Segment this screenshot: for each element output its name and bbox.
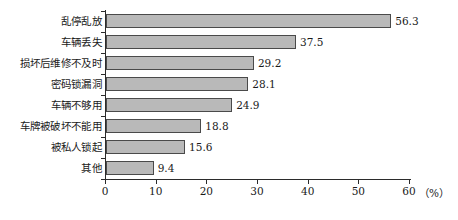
bar-value-label: 29.2 — [258, 56, 281, 70]
y-tick — [101, 137, 105, 138]
x-tick — [156, 180, 157, 184]
bar-value-label: 28.1 — [252, 77, 275, 91]
bar-value-label: 18.8 — [205, 119, 228, 133]
y-tick — [101, 53, 105, 54]
x-tick-label: 0 — [90, 185, 120, 197]
plot-area: 56.3 37.5 29.2 28.1 24.9 18.8 15.6 9.4 — [106, 11, 410, 179]
y-tick — [101, 11, 105, 12]
bar-row: 28.1 — [106, 74, 410, 95]
x-axis-unit-label: （%） — [419, 185, 449, 200]
bar-value-label: 9.4 — [158, 161, 175, 175]
bar — [106, 77, 248, 91]
x-tick — [308, 180, 309, 184]
y-tick — [101, 32, 105, 33]
category-label: 损坏后维修不及时 — [20, 53, 102, 74]
bar-chart: 乱停乱放 车辆丢失 损坏后维修不及时 密码锁漏洞 车辆不够用 车牌被破坏不能用 … — [0, 0, 458, 220]
bar — [106, 14, 391, 28]
bar-row: 29.2 — [106, 53, 410, 74]
x-tick — [358, 180, 359, 184]
bar — [106, 35, 296, 49]
bar-row: 37.5 — [106, 32, 410, 53]
category-label: 车牌被破坏不能用 — [20, 116, 102, 137]
category-label: 车辆不够用 — [51, 95, 103, 116]
bar-row: 18.8 — [106, 116, 410, 137]
bar-value-label: 24.9 — [236, 98, 259, 112]
bar — [106, 56, 254, 70]
bar — [106, 98, 232, 112]
x-tick-label: 50 — [343, 185, 373, 197]
bar-row: 56.3 — [106, 11, 410, 32]
x-tick-label: 40 — [293, 185, 323, 197]
y-axis-line — [105, 10, 106, 180]
category-label: 其他 — [81, 158, 102, 179]
bar-row: 9.4 — [106, 158, 410, 179]
category-label: 被私人锁起 — [51, 137, 103, 158]
y-tick — [101, 116, 105, 117]
x-tick — [105, 180, 106, 184]
x-tick-label: 10 — [141, 185, 171, 197]
y-tick — [101, 74, 105, 75]
x-tick-label: 30 — [242, 185, 272, 197]
category-label: 密码锁漏洞 — [51, 74, 103, 95]
bar-row: 15.6 — [106, 137, 410, 158]
x-tick-label: 20 — [191, 185, 221, 197]
bar-value-label: 15.6 — [189, 140, 212, 154]
x-tick — [409, 180, 410, 184]
bar-row: 24.9 — [106, 95, 410, 116]
bar-value-label: 56.3 — [395, 14, 418, 28]
x-tick — [206, 180, 207, 184]
bar — [106, 161, 154, 175]
bar-value-label: 37.5 — [300, 35, 323, 49]
category-label: 车辆丢失 — [61, 32, 102, 53]
category-label: 乱停乱放 — [61, 11, 102, 32]
bar — [106, 140, 185, 154]
y-tick — [101, 158, 105, 159]
x-tick — [257, 180, 258, 184]
bar — [106, 119, 201, 133]
x-axis-line — [105, 179, 411, 180]
category-axis-labels: 乱停乱放 车辆丢失 损坏后维修不及时 密码锁漏洞 车辆不够用 车牌被破坏不能用 … — [0, 11, 104, 179]
y-tick — [101, 95, 105, 96]
